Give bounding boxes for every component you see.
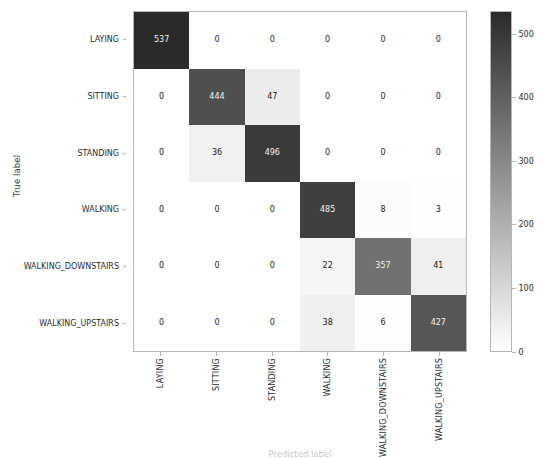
heatmap-cell-value: 0 [159, 149, 164, 157]
x-tick-mark [439, 352, 440, 356]
heatmap-cell: 485 [300, 182, 355, 239]
x-tick-mark [383, 352, 384, 356]
heatmap-cell-value: 0 [159, 319, 164, 327]
heatmap-cell-value: 0 [214, 36, 219, 44]
x-tick-label-text: WALKING_DOWNSTAIRS [379, 358, 388, 457]
heatmap-cell: 0 [189, 295, 244, 352]
heatmap-cell: 0 [134, 295, 189, 352]
heatmap-cell: 0 [411, 125, 466, 182]
colorbar-tick-mark [512, 97, 516, 98]
heatmap-cell-value: 0 [380, 36, 385, 44]
heatmap-cell-value: 496 [265, 149, 280, 157]
heatmap-cell-value: 6 [380, 319, 385, 327]
colorbar-tick-label: 500 [519, 29, 534, 38]
heatmap-cell: 0 [300, 12, 355, 69]
heatmap-cell: 0 [134, 238, 189, 295]
heatmap-cell: 0 [300, 125, 355, 182]
heatmap-plot-area: 5370000004444700003649600000048583000223… [133, 11, 467, 352]
x-tick-mark [216, 352, 217, 356]
colorbar-tick-mark [512, 161, 516, 162]
heatmap-cell: 0 [245, 238, 300, 295]
x-tick-labels: LAYINGSITTINGSTANDINGWALKINGWALKING_DOWN… [133, 352, 467, 458]
heatmap-cell: 496 [245, 125, 300, 182]
heatmap-cell-value: 8 [380, 206, 385, 214]
heatmap-cell-value: 0 [159, 93, 164, 101]
heatmap-cell-value: 36 [212, 149, 222, 157]
heatmap-cell-value: 0 [159, 262, 164, 270]
x-tick-label-text: LAYING [156, 358, 165, 388]
heatmap-cell-value: 38 [323, 319, 333, 327]
heatmap-cell-value: 0 [270, 36, 275, 44]
heatmap-cell: 0 [189, 182, 244, 239]
heatmap-cell-value: 444 [209, 93, 224, 101]
heatmap-cell: 0 [355, 125, 410, 182]
heatmap-cell-value: 3 [436, 206, 441, 214]
x-tick-label-text: SITTING [212, 358, 221, 391]
heatmap-cell: 0 [189, 238, 244, 295]
colorbar-tick-label: 300 [519, 156, 534, 165]
colorbar-tick-label: 100 [519, 283, 534, 292]
heatmap-cell: 0 [189, 12, 244, 69]
heatmap-cell: 0 [411, 12, 466, 69]
heatmap-cell-grid: 5370000004444700003649600000048583000223… [134, 12, 466, 351]
heatmap-cell: 38 [300, 295, 355, 352]
x-tick-label-text: WALKING_UPSTAIRS [435, 358, 444, 441]
heatmap-cell-value: 0 [380, 149, 385, 157]
heatmap-cell: 0 [355, 69, 410, 126]
x-tick-label-text: STANDING [268, 358, 277, 401]
colorbar-tick-mark [512, 34, 516, 35]
heatmap-cell: 8 [355, 182, 410, 239]
heatmap-cell: 0 [300, 69, 355, 126]
heatmap-cell-value: 22 [323, 262, 333, 270]
x-tick-label-text: WALKING [323, 358, 332, 397]
y-tick-mark [123, 323, 127, 324]
heatmap-cell-value: 41 [433, 262, 443, 270]
heatmap-cell: 0 [134, 69, 189, 126]
heatmap-cell: 6 [355, 295, 410, 352]
y-tick-mark [123, 96, 127, 97]
y-tick-mark [123, 39, 127, 40]
heatmap-cell: 0 [134, 182, 189, 239]
heatmap-cell: 537 [134, 12, 189, 69]
heatmap-cell: 0 [134, 125, 189, 182]
heatmap-cell-value: 0 [325, 36, 330, 44]
heatmap-cell-value: 357 [375, 262, 390, 270]
colorbar-tick-mark [512, 224, 516, 225]
heatmap-cell-value: 0 [214, 206, 219, 214]
heatmap-cell: 41 [411, 238, 466, 295]
heatmap-cell: 36 [189, 125, 244, 182]
heatmap-cell: 3 [411, 182, 466, 239]
heatmap-cell: 0 [245, 295, 300, 352]
heatmap-cell: 0 [355, 12, 410, 69]
heatmap-cell-value: 427 [431, 319, 446, 327]
heatmap-cell-value: 0 [270, 319, 275, 327]
heatmap-cell-value: 0 [270, 262, 275, 270]
heatmap-cell: 0 [245, 12, 300, 69]
x-tick-mark [272, 352, 273, 356]
heatmap-cell-value: 0 [214, 319, 219, 327]
x-tick-mark [327, 352, 328, 356]
heatmap-cell-value: 0 [436, 36, 441, 44]
colorbar-tick-label: 400 [519, 93, 534, 102]
colorbar-tick-labels: 0100200300400500 [512, 11, 537, 352]
heatmap-cell-value: 0 [380, 93, 385, 101]
colorbar [490, 11, 512, 352]
heatmap-cell-value: 0 [325, 149, 330, 157]
x-axis-label: Predicted label [133, 449, 467, 458]
y-tick-mark [123, 266, 127, 267]
y-tick-mark [123, 209, 127, 210]
heatmap-cell: 444 [189, 69, 244, 126]
heatmap-cell-value: 485 [320, 206, 335, 214]
y-tick-mark [123, 153, 127, 154]
y-tick-labels: LAYINGSITTINGSTANDINGWALKINGWALKING_DOWN… [0, 11, 126, 352]
heatmap-cell-value: 0 [436, 149, 441, 157]
heatmap-cell-value: 0 [325, 93, 330, 101]
y-tick-label-text: STANDING [77, 148, 119, 157]
heatmap-cell-value: 0 [436, 93, 441, 101]
confusion-matrix-figure: True label LAYINGSITTINGSTANDINGWALKINGW… [0, 0, 537, 458]
heatmap-cell: 47 [245, 69, 300, 126]
y-tick-label-text: WALKING [82, 205, 119, 214]
colorbar-tick-label: 0 [519, 347, 524, 356]
heatmap-cell-value: 0 [159, 206, 164, 214]
heatmap-cell: 427 [411, 295, 466, 352]
